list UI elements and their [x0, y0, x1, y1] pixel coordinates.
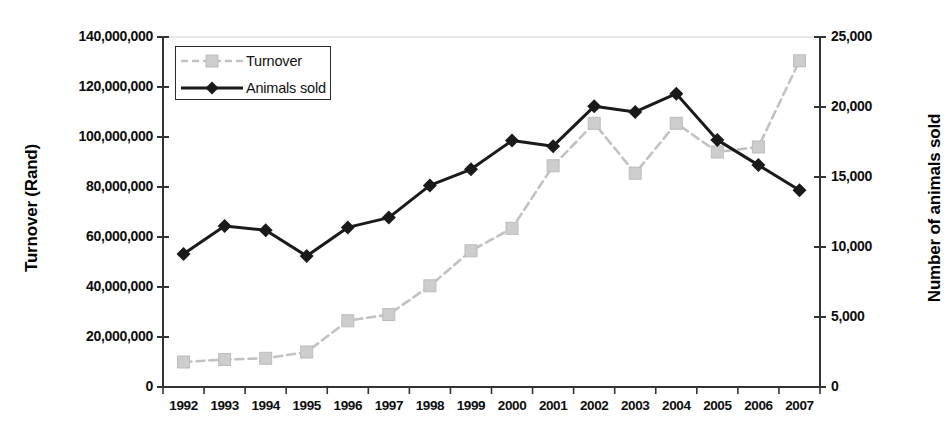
legend-swatch-turnover — [181, 51, 243, 71]
data-point-animals-sold-2006 — [751, 158, 765, 172]
data-series-group — [177, 55, 807, 368]
data-point-turnover-1999 — [465, 245, 477, 257]
legend-item-turnover: Turnover — [176, 47, 330, 74]
data-point-turnover-2000 — [506, 222, 518, 234]
data-point-turnover-2005 — [711, 146, 723, 158]
legend-label-animals-sold: Animals sold — [246, 80, 326, 96]
legend-item-animals-sold: Animals sold — [176, 74, 330, 101]
data-point-turnover-2001 — [547, 160, 559, 172]
chart-legend: Turnover Animals sold — [175, 46, 331, 100]
data-point-turnover-2002 — [588, 117, 600, 129]
data-point-turnover-1994 — [260, 352, 272, 364]
data-point-turnover-2004 — [670, 117, 682, 129]
series-line-turnover — [184, 61, 800, 362]
data-point-animals-sold-2003 — [628, 105, 642, 119]
data-point-turnover-1993 — [219, 354, 231, 366]
data-point-turnover-1997 — [383, 309, 395, 321]
data-point-turnover-1995 — [301, 346, 313, 358]
data-point-turnover-2003 — [629, 167, 641, 179]
legend-label-turnover: Turnover — [246, 53, 302, 69]
data-point-turnover-1996 — [342, 315, 354, 327]
data-point-turnover-1992 — [178, 356, 190, 368]
data-point-turnover-2007 — [794, 55, 806, 67]
data-point-turnover-1998 — [424, 280, 436, 292]
data-point-turnover-2006 — [752, 141, 764, 153]
data-point-animals-sold-1994 — [259, 223, 273, 237]
series-line-animals-sold — [184, 94, 800, 256]
legend-swatch-animals-sold — [181, 78, 243, 98]
data-point-animals-sold-2007 — [793, 183, 807, 197]
